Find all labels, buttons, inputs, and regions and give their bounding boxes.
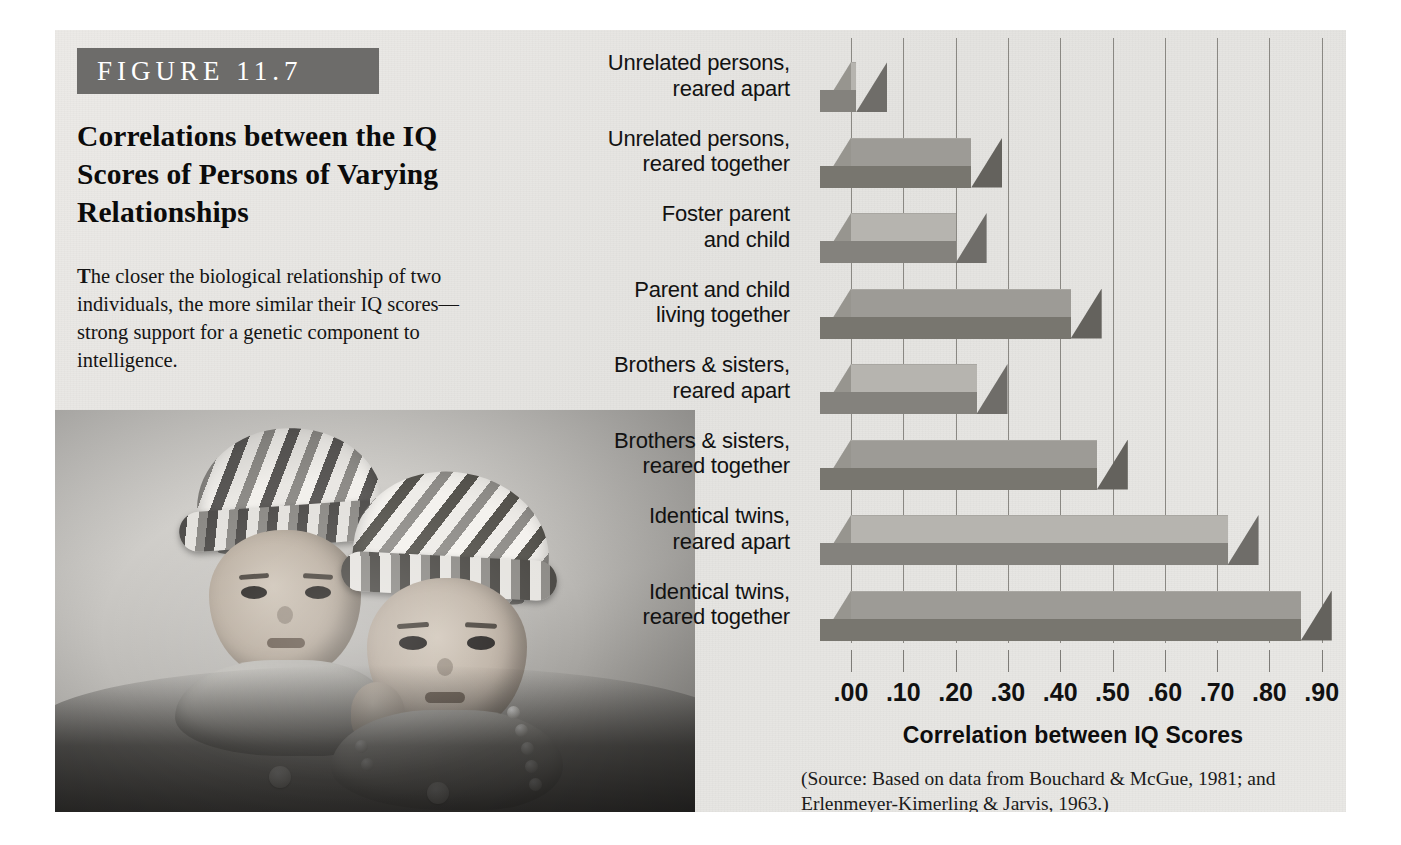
x-tick-label-40: .40 [1032, 678, 1088, 707]
x-tick-20 [956, 650, 957, 672]
category-label-7: Identical twins,reared together [540, 579, 790, 630]
figure-panel: FIGURE 11.7 Correlations between the IQ … [55, 30, 1346, 812]
plot-area: Unrelated persons,reared apartUnrelated … [800, 38, 1346, 643]
bar-right-face [1228, 515, 1259, 565]
bar-front-face [820, 392, 977, 414]
x-tick-80 [1269, 650, 1270, 672]
category-label-5: Brothers & sisters,reared together [540, 428, 790, 479]
x-tick-30 [1008, 650, 1009, 672]
x-tick-10 [903, 650, 904, 672]
category-label-line1: Identical twins, [540, 503, 790, 529]
bar-front-face [820, 619, 1301, 641]
category-label-line1: Unrelated persons, [540, 50, 790, 76]
bar-front-face [820, 166, 971, 188]
bar-right-face [971, 138, 1002, 188]
bar-top-face [851, 62, 856, 91]
bar-top-face [851, 515, 1228, 544]
bar-top-face [851, 289, 1071, 318]
x-tick-label-50: .50 [1085, 678, 1141, 707]
category-label-line1: Parent and child [540, 277, 790, 303]
caption-body: he closer the biological relationship of… [77, 265, 459, 371]
gridline-90 [1322, 38, 1323, 643]
bar-right-face [956, 213, 987, 263]
bar-top-face [851, 138, 971, 167]
figure-caption: The closer the biological relationship o… [77, 262, 497, 374]
x-tick-90 [1322, 650, 1323, 672]
x-tick-label-10: .10 [875, 678, 931, 707]
bar-front-face [820, 317, 1071, 339]
x-tick-label-20: .20 [928, 678, 984, 707]
bar-front-face [820, 241, 956, 263]
bar-top-face [851, 364, 977, 393]
category-label-line1: Identical twins, [540, 579, 790, 605]
category-label-line2: reared apart [540, 76, 790, 102]
x-tick-50 [1113, 650, 1114, 672]
category-label-line1: Brothers & sisters, [540, 428, 790, 454]
bar-right-face [977, 364, 1008, 414]
x-tick-label-90: .90 [1294, 678, 1346, 707]
x-axis-tick-labels: .00.10.20.30.40.50.60.70.80.90 [520, 678, 1346, 712]
x-tick-label-00: .00 [823, 678, 879, 707]
bar-right-face [856, 62, 887, 112]
bar-front-face [820, 468, 1097, 490]
category-label-line2: living together [540, 302, 790, 328]
source-note: (Source: Based on data from Bouchard & M… [801, 767, 1331, 812]
category-label-line1: Brothers & sisters, [540, 352, 790, 378]
bar-right-face [1301, 591, 1332, 641]
caption-dropcap: T [77, 265, 91, 287]
x-tick-00 [851, 650, 852, 672]
figure-number-banner: FIGURE 11.7 [77, 48, 379, 94]
x-tick-label-70: .70 [1189, 678, 1245, 707]
category-label-line1: Foster parent [540, 201, 790, 227]
x-tick-60 [1165, 650, 1166, 672]
category-label-2: Foster parentand child [540, 201, 790, 252]
bar-top-face [851, 591, 1301, 620]
category-label-6: Identical twins,reared apart [540, 503, 790, 554]
figure-title: Correlations between the IQ Scores of Pe… [77, 118, 497, 231]
gridline-80 [1269, 38, 1270, 643]
bar-front-face [820, 543, 1228, 565]
category-label-line2: reared together [540, 604, 790, 630]
x-tick-70 [1217, 650, 1218, 672]
x-tick-label-60: .60 [1137, 678, 1193, 707]
bar-top-face [851, 440, 1097, 469]
category-label-line2: reared together [540, 453, 790, 479]
category-label-line2: reared together [540, 151, 790, 177]
x-axis-title: Correlation between IQ Scores [800, 722, 1346, 749]
bar-top-face [851, 213, 956, 242]
category-label-line2: reared apart [540, 378, 790, 404]
category-label-0: Unrelated persons,reared apart [540, 50, 790, 101]
x-tick-label-30: .30 [980, 678, 1036, 707]
x-tick-40 [1060, 650, 1061, 672]
category-label-line2: reared apart [540, 529, 790, 555]
bar-right-face [1071, 289, 1102, 339]
category-label-line2: and child [540, 227, 790, 253]
category-label-3: Parent and childliving together [540, 277, 790, 328]
category-label-line1: Unrelated persons, [540, 126, 790, 152]
figure-number-label: FIGURE 11.7 [77, 56, 303, 87]
category-label-4: Brothers & sisters,reared apart [540, 352, 790, 403]
bar-front-face [820, 90, 856, 112]
category-label-1: Unrelated persons,reared together [540, 126, 790, 177]
x-tick-label-80: .80 [1241, 678, 1297, 707]
figure-text-column: FIGURE 11.7 Correlations between the IQ … [55, 30, 525, 812]
iq-correlation-bar-chart: Unrelated persons,reared apartUnrelated … [520, 30, 1346, 812]
